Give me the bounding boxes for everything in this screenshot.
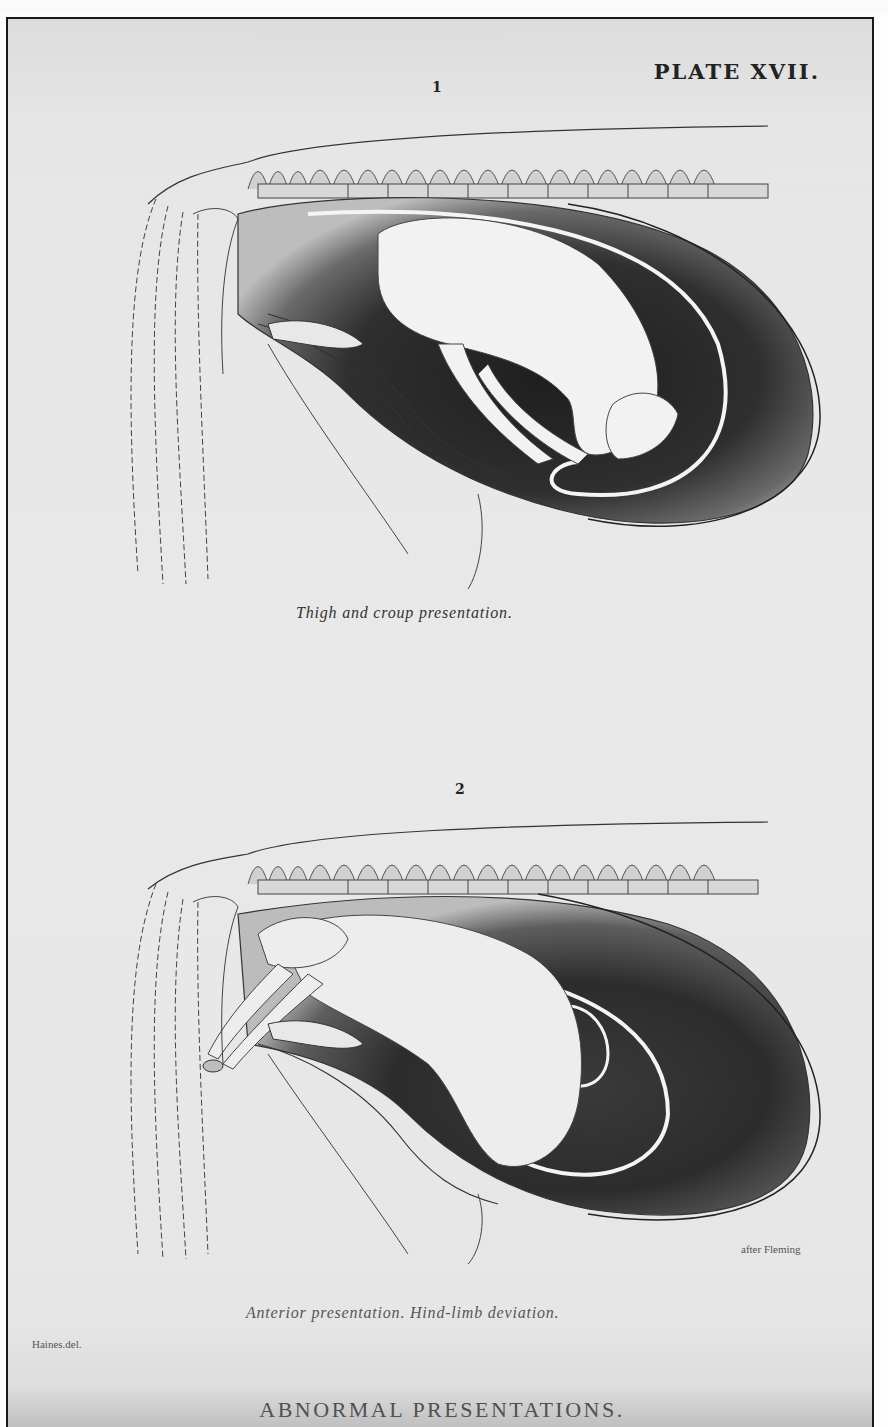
figure-2-source-credit: after Fleming	[741, 1243, 801, 1255]
page-header-strip	[0, 0, 888, 14]
figure-1-illustration	[108, 114, 828, 594]
figure-2-caption: Anterior presentation. Hind-limb deviati…	[246, 1304, 559, 1322]
figure-2-illustration	[108, 814, 828, 1264]
plate-title: PLATE XVII.	[654, 59, 820, 84]
plate-frame: PLATE XVII. 1	[6, 17, 874, 1427]
figure-1-caption: Thigh and croup presentation.	[296, 604, 513, 622]
artist-credit: Haines.del.	[32, 1338, 81, 1350]
plate-footer-title: ABNORMAL PRESENTATIONS.	[8, 1397, 876, 1423]
figure-2-number: 2	[455, 781, 465, 797]
figure-1-number: 1	[432, 79, 442, 95]
